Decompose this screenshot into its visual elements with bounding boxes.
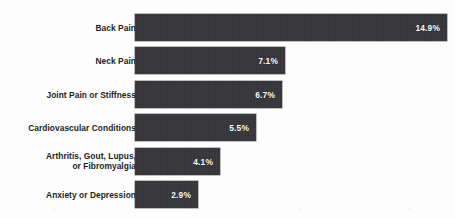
category-label: Anxiety or Depression	[4, 190, 136, 200]
category-label: Cardiovascular Conditions	[4, 123, 136, 133]
bar-row: Anxiety or Depression 2.9%	[0, 181, 455, 208]
bar-value-label: 5.5%	[229, 123, 249, 133]
horizontal-bar-chart: Back Pain 14.9% Neck Pain 7.1% Joint Pai…	[0, 0, 455, 218]
bar-row: Joint Pain or Stiffness 6.7%	[0, 81, 455, 108]
bar-value-label: 6.7%	[255, 90, 275, 100]
bar-row: Neck Pain 7.1%	[0, 47, 455, 74]
bar: 7.1%	[135, 47, 285, 74]
bar-row: Cardiovascular Conditions 5.5%	[0, 114, 455, 141]
bar-value-label: 14.9%	[416, 23, 441, 33]
bar: 14.9%	[135, 14, 447, 41]
bar-value-label: 7.1%	[258, 56, 278, 66]
category-label: Neck Pain	[4, 56, 136, 66]
bar: 6.7%	[135, 81, 282, 108]
bar-value-label: 2.9%	[171, 190, 191, 200]
bar: 2.9%	[135, 181, 198, 208]
category-label: Back Pain	[4, 23, 136, 33]
bar: 4.1%	[135, 148, 220, 175]
category-label: Arthritis, Gout, Lupus, or Fibromyalgia	[4, 151, 136, 172]
bar-row: Arthritis, Gout, Lupus, or Fibromyalgia …	[0, 148, 455, 175]
bar-value-label: 4.1%	[193, 157, 213, 167]
category-label: Joint Pain or Stiffness	[4, 90, 136, 100]
bar: 5.5%	[135, 114, 256, 141]
bar-row: Back Pain 14.9%	[0, 14, 455, 41]
